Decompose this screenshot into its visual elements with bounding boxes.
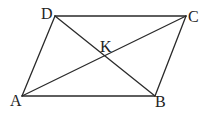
vertex-label-d: D — [41, 5, 53, 22]
intersection-label-k: K — [100, 38, 112, 55]
side-da — [22, 16, 55, 96]
side-bc — [155, 16, 186, 96]
vertex-label-b: B — [155, 93, 166, 110]
vertex-label-c: C — [188, 8, 199, 25]
vertex-label-a: A — [10, 92, 22, 109]
diagonal-bd — [55, 16, 155, 96]
parallelogram-diagram: A B C D K — [0, 0, 211, 114]
